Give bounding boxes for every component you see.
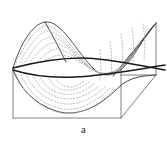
- contour-fall-line: [143, 24, 145, 60]
- figure-caption: a: [0, 123, 167, 136]
- bold-level-curves: [13, 58, 165, 77]
- contour-fall-line: [110, 42, 112, 75]
- contour-line: [27, 76, 105, 104]
- contour-line: [49, 79, 89, 90]
- contour-fall-line: [132, 28, 134, 64]
- surface-outline: [13, 22, 156, 113]
- contour-line: [41, 78, 94, 94]
- contour-fall-line: [121, 34, 123, 69]
- contour-line: [57, 80, 84, 87]
- figure-container: a: [0, 0, 167, 148]
